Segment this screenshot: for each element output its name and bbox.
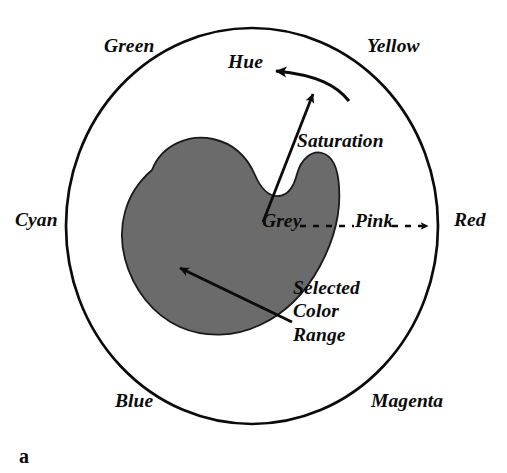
wheel-label-green: Green	[104, 36, 154, 57]
panel-letter: a	[19, 446, 29, 466]
annotation-label-saturation: Saturation	[297, 131, 384, 152]
annotation-label-selected-color-range: Selected Color Range	[293, 276, 360, 346]
wheel-label-blue: Blue	[115, 391, 153, 412]
selected-label-line-2: Color	[293, 299, 360, 322]
wheel-label-cyan: Cyan	[15, 210, 58, 231]
wheel-label-magenta: Magenta	[371, 391, 443, 412]
wheel-label-yellow: Yellow	[367, 36, 420, 57]
axis-label-pink: Pink	[355, 211, 393, 232]
selected-label-line-3: Range	[293, 323, 360, 346]
wheel-label-red: Red	[454, 210, 486, 231]
axis-label-grey: Grey	[262, 211, 301, 232]
annotation-label-hue: Hue	[228, 52, 263, 73]
figure-panel-a: Green Yellow Cyan Red Blue Magenta Hue S…	[0, 0, 507, 473]
selected-label-line-1: Selected	[293, 276, 360, 299]
